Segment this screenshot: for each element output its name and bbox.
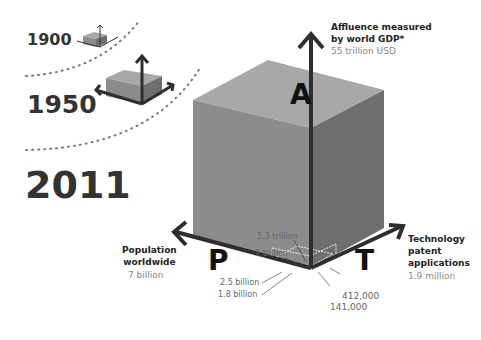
gdp-1900-label: 2 trillion xyxy=(255,249,288,258)
patents-1900-label: 141,000 xyxy=(330,302,367,312)
cube-1950 xyxy=(96,56,173,104)
population-title: Populationworldwide xyxy=(122,244,177,268)
cube-1900 xyxy=(77,25,118,47)
axis-letter-a: A xyxy=(290,78,312,111)
patents-1950-label: 412,000 xyxy=(342,291,379,301)
affluence-title: Affluence measuredby world GDP* xyxy=(331,21,432,45)
year-2011-label: 2011 xyxy=(25,163,131,207)
population-value: 7 billion xyxy=(128,270,164,280)
population-1900-label: 1.8 billion xyxy=(218,290,257,299)
axis-letter-t: T xyxy=(355,244,374,277)
technology-value: 1.9 million xyxy=(408,271,455,281)
year-1900-label: 1900 xyxy=(27,30,72,49)
affluence-value: 55 trillion USD xyxy=(331,46,396,56)
gdp-1950-label: 5.3 trillion xyxy=(257,232,298,241)
population-1950-label: 2.5 billion xyxy=(220,278,259,287)
axis-letter-p: P xyxy=(208,244,229,277)
technology-title: Technologypatentapplications xyxy=(408,233,470,269)
year-1950-label: 1950 xyxy=(27,90,97,119)
